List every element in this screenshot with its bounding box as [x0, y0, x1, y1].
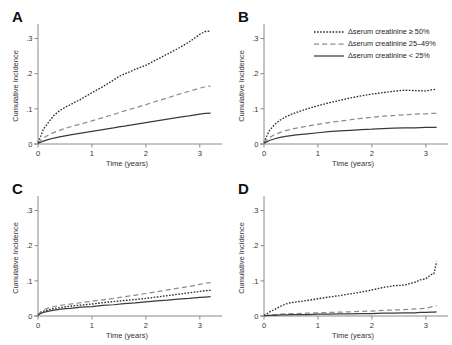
svg-text:.1: .1 — [26, 277, 32, 286]
svg-text:1: 1 — [316, 321, 320, 330]
legend-label-lt25: Δserum creatinine < 25% — [348, 51, 430, 60]
cumulative-incidence-figure: A 0.1.2.30123Time (years)Cumulative Inci… — [0, 0, 452, 345]
svg-text:1: 1 — [316, 149, 320, 158]
svg-text:.3: .3 — [26, 206, 32, 215]
legend: Δserum creatinine ≥ 50%Δserum creatinine… — [314, 26, 452, 62]
svg-text:0: 0 — [262, 149, 266, 158]
legend-swatch-dotted-icon — [314, 28, 344, 36]
svg-text:3: 3 — [198, 149, 202, 158]
panel-d-plot: 0.1.2.30123Time (years)Cumulative Incide… — [226, 172, 452, 344]
svg-text:0: 0 — [262, 321, 266, 330]
svg-text:.1: .1 — [252, 277, 258, 286]
svg-text:Cumulative Incidence: Cumulative Incidence — [11, 50, 20, 122]
svg-text:2: 2 — [144, 149, 148, 158]
svg-text:.2: .2 — [252, 241, 258, 250]
svg-text:2: 2 — [370, 321, 374, 330]
svg-text:Time (years): Time (years) — [332, 159, 374, 168]
svg-text:2: 2 — [144, 321, 148, 330]
svg-text:3: 3 — [424, 149, 428, 158]
svg-text:0: 0 — [254, 312, 258, 321]
svg-text:0: 0 — [28, 312, 32, 321]
panel-a-plot: 0.1.2.30123Time (years)Cumulative Incide… — [0, 0, 226, 172]
svg-text:.3: .3 — [252, 206, 258, 215]
svg-text:Cumulative Incidence: Cumulative Incidence — [11, 222, 20, 294]
legend-item-mid: Δserum creatinine 25–49% — [314, 38, 452, 49]
legend-label-mid: Δserum creatinine 25–49% — [348, 39, 436, 48]
svg-text:.3: .3 — [252, 34, 258, 43]
svg-text:.2: .2 — [26, 69, 32, 78]
svg-text:.2: .2 — [26, 241, 32, 250]
svg-text:2: 2 — [370, 149, 374, 158]
panel-a: A 0.1.2.30123Time (years)Cumulative Inci… — [0, 0, 226, 172]
svg-text:Time (years): Time (years) — [106, 331, 148, 340]
svg-text:0: 0 — [36, 321, 40, 330]
legend-item-lt25: Δserum creatinine < 25% — [314, 50, 452, 61]
svg-text:.3: .3 — [26, 34, 32, 43]
panel-d: D 0.1.2.30123Time (years)Cumulative Inci… — [226, 172, 452, 344]
svg-text:.2: .2 — [252, 69, 258, 78]
svg-text:Time (years): Time (years) — [106, 159, 148, 168]
svg-text:1: 1 — [90, 149, 94, 158]
svg-text:.1: .1 — [26, 105, 32, 114]
svg-text:1: 1 — [90, 321, 94, 330]
panel-c: C 0.1.2.30123Time (years)Cumulative Inci… — [0, 172, 226, 344]
svg-text:.1: .1 — [252, 105, 258, 114]
svg-text:3: 3 — [424, 321, 428, 330]
legend-item-ge50: Δserum creatinine ≥ 50% — [314, 26, 452, 37]
svg-text:0: 0 — [28, 140, 32, 149]
svg-text:Cumulative Incidence: Cumulative Incidence — [237, 50, 246, 122]
svg-text:0: 0 — [254, 140, 258, 149]
legend-swatch-solid-icon — [314, 52, 344, 60]
panel-c-plot: 0.1.2.30123Time (years)Cumulative Incide… — [0, 172, 226, 344]
svg-text:3: 3 — [198, 321, 202, 330]
svg-text:0: 0 — [36, 149, 40, 158]
legend-label-ge50: Δserum creatinine ≥ 50% — [348, 27, 429, 36]
svg-text:Time (years): Time (years) — [332, 331, 374, 340]
legend-swatch-dashed-icon — [314, 40, 344, 48]
svg-text:Cumulative Incidence: Cumulative Incidence — [237, 222, 246, 294]
